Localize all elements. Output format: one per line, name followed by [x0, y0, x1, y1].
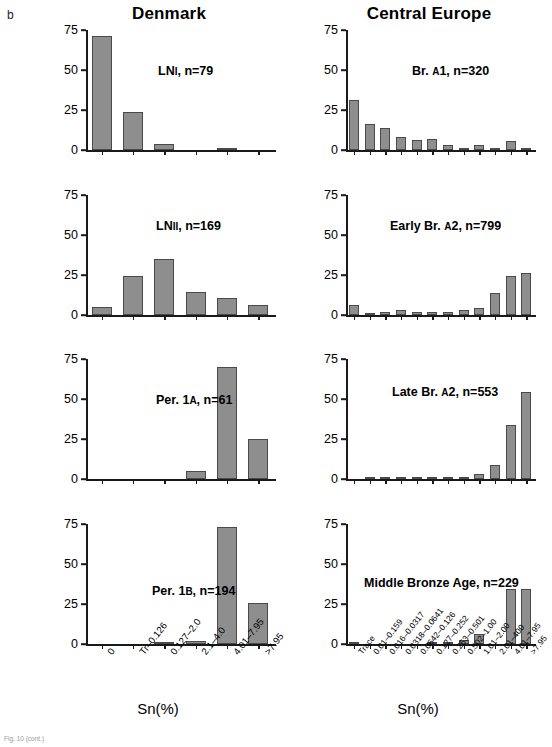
x-axis-line [86, 150, 276, 152]
y-tick-label: 50 [308, 63, 338, 77]
bar-slot [211, 30, 242, 150]
y-tick-label: 50 [48, 228, 78, 242]
bar [365, 124, 375, 150]
bar [490, 465, 500, 479]
bar-series [346, 195, 534, 315]
x-tick-label: 0 [105, 646, 117, 657]
bar [186, 292, 206, 315]
x-tick-mark [432, 315, 433, 320]
x-tick-mark [448, 150, 449, 155]
bar-slot [149, 195, 180, 315]
bar [474, 308, 484, 315]
x-tick-mark [102, 150, 103, 155]
bar [92, 307, 112, 315]
x-tick-mark [196, 150, 197, 155]
bar-slot [503, 195, 519, 315]
bar-slot [211, 195, 242, 315]
x-axis-line [346, 479, 536, 481]
column-title-denmark: Denmark [58, 4, 280, 24]
x-tick-mark [448, 315, 449, 320]
bar-slot [456, 195, 472, 315]
x-tick-mark [164, 644, 165, 649]
y-tick-label: 75 [48, 517, 78, 531]
x-tick-mark [526, 315, 527, 320]
x-tick-mark [196, 644, 197, 649]
bar [506, 276, 516, 315]
chart-denmark-per1a: 0255075Per. 1A, n=61 [48, 353, 280, 503]
bar [427, 139, 437, 150]
x-tick-mark [479, 479, 480, 484]
y-tick-label: 0 [48, 143, 78, 157]
y-tick-label: 75 [308, 352, 338, 366]
bar-slot [149, 30, 180, 150]
plot-area [86, 195, 274, 315]
x-tick-mark [227, 150, 228, 155]
x-tick-mark [354, 315, 355, 320]
x-tick-mark [102, 315, 103, 320]
x-tick-mark [196, 479, 197, 484]
bar-slot [424, 359, 440, 479]
y-tick-label: 0 [308, 143, 338, 157]
figure-panel-b: b Denmark Central Europe Sn(%) Sn(%) Fig… [0, 0, 552, 747]
bar-slot [393, 195, 409, 315]
bar [154, 259, 174, 315]
panel-label-denmark-per1b: Per. 1B, n=194 [152, 584, 235, 598]
x-tick-mark [370, 315, 371, 320]
bar-slot [409, 30, 425, 150]
bar-slot [117, 359, 148, 479]
x-tick-mark [495, 479, 496, 484]
bar-slot [503, 30, 519, 150]
y-tick-label: 75 [48, 352, 78, 366]
bar-slot [243, 359, 274, 479]
bar-slot [487, 359, 503, 479]
bar-slot [440, 195, 456, 315]
bar-slot [86, 524, 117, 644]
y-tick-label: 75 [308, 517, 338, 531]
x-tick-mark [164, 315, 165, 320]
bar [490, 293, 500, 315]
bar-slot [440, 30, 456, 150]
x-tick-labels: 0Tr–0.1260.127–2.02.1–4.04.01–7.95>7.95 [86, 650, 274, 722]
panel-label-ce-late-br-a2: Late Br. A2, n=553 [392, 385, 498, 399]
x-tick-mark [385, 150, 386, 155]
bar-slot [86, 30, 117, 150]
x-tick-mark [196, 315, 197, 320]
y-tick-label: 25 [48, 597, 78, 611]
x-axis-line [346, 150, 536, 152]
x-tick-mark [354, 150, 355, 155]
bar [396, 137, 406, 150]
bar [349, 305, 359, 315]
x-tick-mark [495, 150, 496, 155]
x-tick-mark [511, 479, 512, 484]
chart-denmark-ln1: 0255075LNI, n=79 [48, 24, 280, 174]
bar [92, 36, 112, 150]
bar [123, 112, 143, 150]
bar-slot [456, 359, 472, 479]
bar [248, 305, 268, 315]
bar-slot [487, 195, 503, 315]
bar [380, 128, 390, 150]
bar-slot [377, 359, 393, 479]
y-tick-label: 50 [308, 228, 338, 242]
panel-label-denmark-ln2: LNII, n=169 [156, 219, 221, 233]
y-tick-label: 0 [48, 472, 78, 486]
chart-ce-late-br-a2: 0255075Late Br. A2, n=553 [308, 353, 540, 503]
y-tick-label: 25 [48, 268, 78, 282]
bar-slot [362, 359, 378, 479]
y-tick-label: 25 [308, 597, 338, 611]
x-tick-mark [417, 479, 418, 484]
x-tick-mark [511, 150, 512, 155]
bar-slot [346, 195, 362, 315]
x-tick-mark [258, 150, 259, 155]
column-title-central-europe: Central Europe [318, 4, 540, 24]
x-tick-mark [385, 315, 386, 320]
plot-area [86, 359, 274, 479]
y-tick-label: 50 [48, 392, 78, 406]
bar-slot [86, 359, 117, 479]
bar-slot [424, 30, 440, 150]
bar-slot [149, 359, 180, 479]
bar-slot [456, 30, 472, 150]
bar-slot [503, 359, 519, 479]
bar-slot [243, 195, 274, 315]
chart-ce-br-a1: 0255075Br. A1, n=320 [308, 24, 540, 174]
